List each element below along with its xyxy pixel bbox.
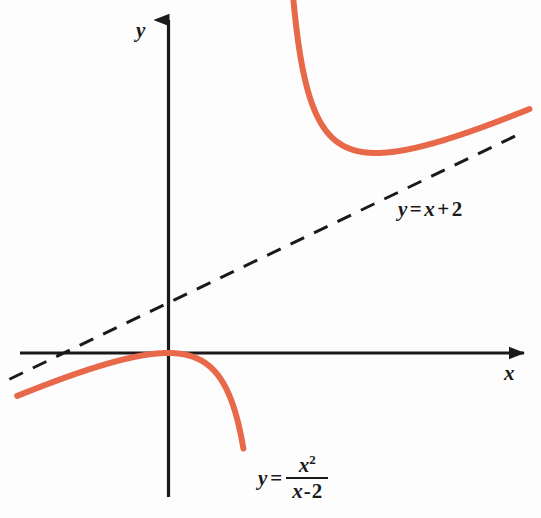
plot-canvas: [0, 0, 541, 518]
curve-right-branch: [289, 0, 529, 153]
asymptote-equals: =: [408, 197, 424, 221]
asymptote-plus-sign: +: [435, 197, 451, 221]
fraction-denominator: x-2: [286, 479, 328, 502]
asymptote-constant: 2: [452, 197, 463, 221]
fraction-numerator: x2: [293, 455, 322, 477]
y-axis-label: y: [136, 20, 145, 41]
curve-fraction: x2 x-2: [286, 455, 328, 502]
denominator-constant: 2: [312, 479, 323, 503]
curve-equation-label: y = x2 x-2: [258, 455, 328, 502]
numerator-base: x: [299, 453, 310, 477]
x-axis-label: x: [504, 363, 515, 384]
rational-function-graph: y x y=x+2 y = x2 x-2: [0, 0, 541, 518]
denominator-variable: x: [292, 479, 303, 503]
numerator-exponent: 2: [309, 452, 316, 467]
axes-group: [20, 20, 524, 497]
oblique-asymptote-line: [9, 134, 519, 379]
asymptote-equation-label: y=x+2: [398, 199, 463, 220]
curve-lhs: y: [258, 468, 267, 489]
asymptote-rhs-variable: x: [424, 197, 435, 221]
curve-left-branch: [17, 353, 243, 449]
asymptote-lhs: y: [398, 197, 408, 221]
denominator-minus-sign: -: [303, 479, 312, 503]
curve-equals: =: [270, 468, 282, 489]
